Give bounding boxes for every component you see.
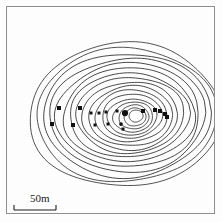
contour-plot	[7, 7, 215, 214]
survey-marker	[98, 112, 101, 115]
survey-marker	[107, 123, 110, 126]
survey-marker	[50, 122, 54, 126]
figure-root: 50m	[0, 0, 223, 222]
scale-bar-graphic	[12, 196, 92, 218]
survey-marker	[57, 106, 61, 110]
survey-marker	[153, 108, 157, 112]
survey-marker	[141, 109, 145, 113]
survey-marker	[165, 115, 169, 119]
survey-marker	[122, 128, 125, 131]
survey-marker	[105, 111, 108, 114]
scale-bar-label: 50m	[30, 192, 50, 204]
survey-marker	[122, 110, 128, 116]
map-frame	[6, 6, 215, 214]
survey-marker	[78, 106, 82, 110]
survey-marker	[119, 122, 123, 126]
survey-marker	[71, 123, 75, 127]
survey-marker	[158, 109, 162, 113]
survey-marker	[90, 112, 93, 115]
survey-marker	[116, 110, 119, 113]
scale-bar	[12, 196, 92, 218]
survey-marker	[94, 124, 97, 127]
